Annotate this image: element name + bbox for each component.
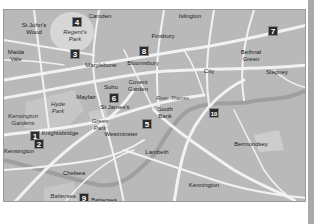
place-label: Bloomsbury [127, 60, 159, 67]
river-label: Thames [171, 95, 189, 102]
river-label: River [156, 95, 168, 102]
place-label: Bermondsey [234, 141, 268, 148]
place-label: Stepney [266, 69, 288, 76]
park-label: Regent'sPark [63, 29, 87, 42]
place-label: Camden [89, 13, 112, 20]
place-label: BethnalGreen [241, 49, 261, 62]
place-label: Finsbury [151, 33, 174, 40]
place-label: Battersea [91, 197, 117, 202]
map-marker-10[interactable]: 10 [209, 108, 219, 118]
place-label: Kensington [4, 148, 34, 155]
place-label: MaidaVale [8, 49, 24, 62]
map-marker-3[interactable]: 3 [70, 49, 80, 59]
park-label: KensingtonGardens [8, 113, 38, 126]
place-label: Westminster [104, 131, 137, 138]
place-label: St James's [100, 104, 129, 111]
london-map[interactable]: St John'sWoodCamdenIslingtonMaidaValeMar… [3, 9, 306, 202]
place-label: St John'sWood [22, 22, 47, 35]
place-label: Lambeth [145, 149, 168, 156]
park-label: BatterseaPark [50, 193, 76, 203]
place-label: Marylebone [85, 62, 116, 69]
place-label: SouthBank [157, 106, 173, 119]
park-label: HydePark [51, 101, 65, 114]
page-edge-strip [308, 0, 314, 224]
place-label: Mayfair [76, 94, 96, 101]
place-label: City [204, 68, 214, 75]
map-marker-2[interactable]: 2 [34, 139, 44, 149]
place-label: Chelsea [63, 170, 85, 177]
map-marker-4[interactable]: 4 [72, 17, 82, 27]
park-label: GreenPark [92, 118, 109, 131]
place-label: Soho [104, 84, 118, 91]
map-marker-9[interactable]: 9 [79, 193, 89, 202]
map-marker-8[interactable]: 8 [139, 46, 149, 56]
place-label: Knightsbridge [42, 130, 79, 137]
place-label: CoventGarden [128, 79, 148, 92]
map-marker-6[interactable]: 6 [109, 93, 119, 103]
place-label: Islington [179, 13, 201, 20]
map-marker-5[interactable]: 5 [142, 119, 152, 129]
place-label: Kennington [189, 182, 219, 189]
map-marker-7[interactable]: 7 [268, 26, 278, 36]
